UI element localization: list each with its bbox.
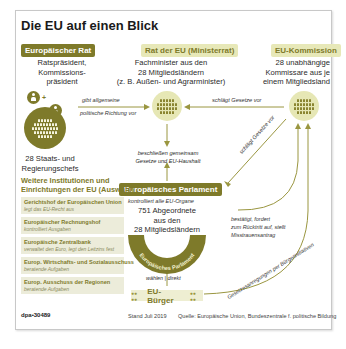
institution-item: Gerichtshof der Europäischen Union legt … xyxy=(21,197,124,214)
institution-item: Europ. Wirtschafts- und Sozialausschuss … xyxy=(21,257,124,274)
institution-item: Europ. Ausschuss der Regionen beratende … xyxy=(21,277,124,294)
dpa-id: dpa•30489 xyxy=(21,312,50,318)
citizens-box: ●● ●● EU-Bürger ●● ●● xyxy=(131,290,203,301)
institution-item: Europäischer Rechnungshof kontrolliert A… xyxy=(21,217,124,234)
footer-source: Quelle: Europäische Union, Bundeszentral… xyxy=(178,313,336,319)
citizens-icon: ●● ●● xyxy=(190,290,203,302)
citizens-icon: ●● ●● xyxy=(131,290,144,302)
other-institutions-title: Weitere Institutionen und Einrichtungen … xyxy=(21,176,134,194)
infographic-frame: Die EU auf einen Blick Europäischer Rat … xyxy=(15,10,332,330)
citizens-vote-label: wählen | direkt xyxy=(146,275,181,281)
institution-item: Europäische Zentralbank verwaltet den Eu… xyxy=(21,237,124,254)
footer-date: Stand Juli 2019 xyxy=(128,313,167,319)
